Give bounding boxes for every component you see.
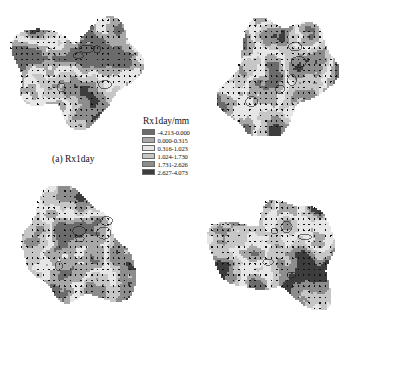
legend-rx1day: Rx1day/mm -4.213-0.0000.000-0.3150.316-1… <box>142 116 190 176</box>
map-raster-d <box>207 186 347 318</box>
legend-swatch-icon <box>142 145 155 151</box>
panel-txx: TXx/°C 0.000-0.0120.013-0.0180.019-0.024… <box>201 182 402 365</box>
legend-label: 2.627-4.073 <box>158 169 188 176</box>
legend-rows-rx1day: -4.213-0.0000.000-0.3150.316-1.0231.024-… <box>142 129 190 177</box>
map-raster-a <box>6 4 146 136</box>
legend-label: -4.213-0.000 <box>158 129 190 136</box>
legend-row: 1.731-2.626 <box>142 161 190 169</box>
legend-row: 0.316-1.023 <box>142 145 190 153</box>
legend-label: 0.316-1.023 <box>158 145 188 152</box>
legend-swatch-icon <box>142 129 155 135</box>
legend-swatch-icon <box>142 137 155 143</box>
map-rx1day <box>6 4 146 136</box>
legend-row: 0.000-0.315 <box>142 137 190 145</box>
legend-title-rx1day: Rx1day/mm <box>143 116 190 126</box>
panel-rx5day: Rx5day/mm -3.818-0.0000.001-1.8281.829-3… <box>201 0 402 182</box>
panel-su25: SU25/d 0.000-0.1410.142-0.2410.242-0.353… <box>0 182 201 365</box>
legend-swatch-icon <box>142 169 155 175</box>
legend-swatch-icon <box>142 153 155 159</box>
figure-multipanel-maps: Rx1day/mm -4.213-0.0000.000-0.3150.316-1… <box>0 0 402 365</box>
legend-label: 0.000-0.315 <box>158 137 188 144</box>
legend-row: 2.627-4.073 <box>142 169 190 177</box>
map-su25 <box>6 186 146 318</box>
map-raster-c <box>6 186 146 318</box>
legend-swatch-icon <box>142 161 155 167</box>
legend-label: 1.731-2.626 <box>158 161 188 168</box>
map-raster-b <box>207 4 347 136</box>
legend-label: 1.024-1.730 <box>158 153 188 160</box>
map-rx5day <box>207 4 347 136</box>
map-txx <box>207 186 347 318</box>
legend-row: -4.213-0.000 <box>142 129 190 137</box>
caption-rx1day: (a) Rx1day <box>52 154 94 164</box>
legend-row: 1.024-1.730 <box>142 153 190 161</box>
panel-rx1day: Rx1day/mm -4.213-0.0000.000-0.3150.316-1… <box>0 0 201 182</box>
